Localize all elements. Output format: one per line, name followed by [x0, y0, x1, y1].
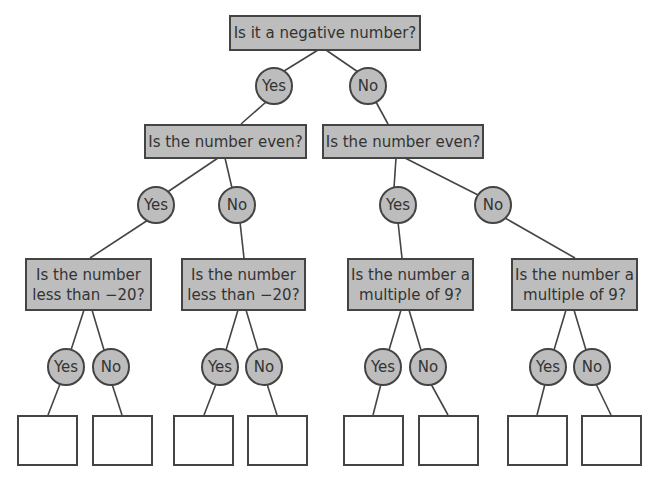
answer-label: Yes: [536, 358, 560, 376]
answer-label: No: [483, 196, 503, 214]
question-text-line2: less than −20?: [187, 285, 299, 305]
question-node-less-than-20-a: Is the number less than −20?: [25, 258, 152, 311]
question-node-multiple-of-9-a: Is the number a multiple of 9?: [347, 258, 474, 311]
question-text-line2: less than −20?: [32, 285, 144, 305]
question-text: Is the number even?: [326, 132, 481, 152]
leaf-answer-box[interactable]: [343, 415, 404, 466]
answer-label: No: [101, 358, 121, 376]
leaf-answer-box[interactable]: [173, 415, 234, 466]
question-node-even-left: Is the number even?: [144, 124, 307, 159]
question-text-line1: Is the number: [191, 265, 296, 285]
answer-label: Yes: [262, 77, 286, 95]
answer-node-no: No: [573, 348, 611, 386]
question-text-line2: multiple of 9?: [359, 285, 462, 305]
answer-node-yes: Yes: [137, 186, 175, 224]
answer-node-yes: Yes: [379, 186, 417, 224]
question-node-less-than-20-b: Is the number less than −20?: [181, 258, 306, 311]
leaf-answer-box[interactable]: [247, 415, 308, 466]
leaf-answer-box[interactable]: [507, 415, 568, 466]
answer-node-yes: Yes: [529, 348, 567, 386]
leaf-answer-box[interactable]: [418, 415, 479, 466]
question-node-multiple-of-9-b: Is the number a multiple of 9?: [511, 258, 638, 311]
answer-label: No: [358, 77, 378, 95]
answer-node-no: No: [245, 348, 283, 386]
leaf-answer-box[interactable]: [92, 415, 153, 466]
answer-label: No: [254, 358, 274, 376]
leaf-answer-box[interactable]: [581, 415, 642, 466]
answer-node-yes: Yes: [364, 348, 402, 386]
leaf-answer-box[interactable]: [17, 415, 78, 466]
answer-node-yes: Yes: [255, 67, 293, 105]
question-text-line2: multiple of 9?: [523, 285, 626, 305]
answer-label: No: [227, 196, 247, 214]
answer-label: Yes: [386, 196, 410, 214]
answer-label: Yes: [208, 358, 232, 376]
question-text-line1: Is the number a: [515, 265, 634, 285]
answer-label: Yes: [54, 358, 78, 376]
question-node-even-right: Is the number even?: [322, 124, 484, 159]
answer-node-no: No: [409, 348, 447, 386]
answer-node-yes: Yes: [47, 348, 85, 386]
answer-node-no: No: [218, 186, 256, 224]
root-question-node: Is it a negative number?: [229, 15, 421, 51]
answer-label: No: [418, 358, 438, 376]
answer-node-yes: Yes: [201, 348, 239, 386]
answer-node-no: No: [474, 186, 512, 224]
answer-node-no: No: [349, 67, 387, 105]
answer-label: No: [582, 358, 602, 376]
question-text: Is the number even?: [148, 132, 303, 152]
question-text-line1: Is the number: [36, 265, 141, 285]
answer-label: Yes: [144, 196, 168, 214]
question-text-line1: Is the number a: [351, 265, 470, 285]
root-question-text: Is it a negative number?: [234, 23, 417, 43]
answer-label: Yes: [371, 358, 395, 376]
answer-node-no: No: [92, 348, 130, 386]
